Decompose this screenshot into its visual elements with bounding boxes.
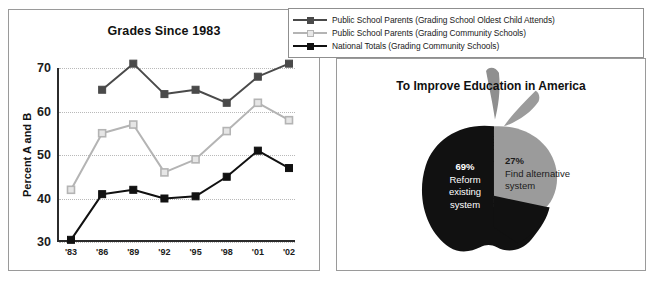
legend-item-label: Public School Parents (Grading Community…	[332, 28, 526, 38]
pie-label-alternative-line2: system	[505, 180, 535, 191]
data-point-marker	[192, 156, 199, 163]
plot-inner: 3040506070 '83'86'89'92'95'98'01'02	[57, 68, 295, 242]
data-point-marker	[161, 169, 168, 176]
x-tick-label: '86	[96, 247, 108, 257]
data-point-marker	[161, 91, 168, 98]
pie-chart-panel: To Improve Education in America 69% Refo…	[336, 58, 646, 271]
pie-label-reform: 69% Reform existing system	[430, 161, 500, 211]
y-axis-title: Percent A and B	[19, 68, 35, 242]
pie-label-alternative-percent: 27%	[505, 155, 597, 168]
y-axis-title-text: Percent A and B	[21, 113, 33, 197]
pie-label-alternative: 27% Find alternative system	[505, 155, 597, 193]
x-tick-label: '92	[158, 247, 170, 257]
gridline	[59, 242, 295, 243]
legend-marker-icon	[293, 15, 327, 26]
pie-label-reform-line2: existing	[449, 186, 481, 197]
legend-item: National Totals (Grading Community Schoo…	[293, 40, 638, 52]
data-point-marker	[130, 121, 137, 128]
data-point-marker	[286, 165, 293, 172]
data-point-marker	[161, 195, 168, 202]
chart-legend: Public School Parents (Grading School Ol…	[288, 8, 644, 58]
legend-item-label: National Totals (Grading Community Schoo…	[332, 41, 499, 51]
pie-label-reform-line3: system	[450, 199, 480, 210]
legend-marker-icon	[293, 41, 327, 52]
data-point-marker	[223, 99, 230, 106]
apple-leaf-icon	[504, 91, 539, 127]
pie-label-reform-line1: Reform	[449, 174, 480, 185]
data-point-marker	[286, 117, 293, 124]
pie-chart-title: To Improve Education in America	[337, 79, 645, 93]
line-series-layer	[57, 68, 295, 242]
legend-item-label: Public School Parents (Grading School Ol…	[332, 15, 555, 25]
x-tick-label: '95	[189, 247, 201, 257]
data-point-marker	[254, 73, 261, 80]
legend-item: Public School Parents (Grading Community…	[293, 27, 638, 39]
line-chart-title: Grades Since 1983	[9, 24, 319, 38]
data-point-marker	[286, 60, 293, 67]
data-point-marker	[68, 186, 75, 193]
line-chart-panel: Grades Since 1983 Percent A and B 304050…	[8, 9, 320, 271]
data-point-marker	[130, 60, 137, 67]
data-point-marker	[99, 130, 106, 137]
y-tick-label: 40	[37, 192, 51, 206]
data-point-marker	[223, 128, 230, 135]
apple-stem-icon	[486, 68, 500, 120]
x-tick-label: '02	[283, 247, 295, 257]
x-tick-label: '89	[127, 247, 139, 257]
x-tick-label: '83	[65, 247, 77, 257]
data-point-marker	[99, 86, 106, 93]
x-tick-label: '01	[252, 247, 264, 257]
series-line	[102, 64, 289, 103]
data-point-marker	[254, 99, 261, 106]
pie-label-reform-percent: 69%	[430, 161, 500, 174]
data-point-marker	[254, 147, 261, 154]
pie-label-alternative-line1: Find alternative	[505, 168, 570, 179]
legend-marker-icon	[293, 28, 327, 39]
data-point-marker	[223, 173, 230, 180]
data-point-marker	[68, 236, 75, 243]
x-tick-label: '98	[221, 247, 233, 257]
data-point-marker	[192, 86, 199, 93]
data-point-marker	[130, 186, 137, 193]
y-tick-label: 60	[37, 105, 51, 119]
legend-item: Public School Parents (Grading School Ol…	[293, 14, 638, 26]
plot-area: 3040506070 '83'86'89'92'95'98'01'02	[57, 68, 295, 242]
y-tick-label: 70	[37, 61, 51, 75]
data-point-marker	[99, 191, 106, 198]
y-tick-label: 50	[37, 148, 51, 162]
series-line	[71, 103, 289, 190]
y-tick-label: 30	[37, 235, 51, 249]
data-point-marker	[192, 193, 199, 200]
